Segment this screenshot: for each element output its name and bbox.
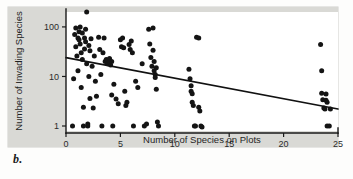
data-point bbox=[111, 82, 116, 87]
x-tick-label: 25 bbox=[333, 139, 343, 149]
data-point bbox=[131, 124, 136, 129]
data-point bbox=[109, 93, 114, 98]
data-point bbox=[114, 97, 119, 102]
data-point bbox=[90, 64, 95, 69]
data-point bbox=[83, 39, 88, 44]
data-point bbox=[98, 72, 103, 77]
data-point bbox=[135, 85, 140, 90]
data-point bbox=[149, 64, 154, 69]
axes-group bbox=[66, 9, 338, 133]
data-point bbox=[151, 26, 156, 31]
data-point bbox=[124, 100, 129, 105]
data-point bbox=[153, 75, 158, 80]
data-point bbox=[121, 45, 126, 50]
y-tick-label: 1 bbox=[54, 121, 59, 131]
data-point bbox=[324, 92, 329, 97]
data-point bbox=[93, 79, 98, 84]
data-point bbox=[74, 53, 79, 58]
data-point bbox=[116, 101, 121, 106]
data-point bbox=[79, 85, 84, 90]
y-tick-label: 100 bbox=[44, 22, 59, 32]
figure-caption: b. bbox=[13, 152, 23, 167]
data-point bbox=[91, 106, 96, 111]
data-point bbox=[99, 124, 104, 129]
data-point bbox=[92, 53, 97, 58]
data-points-group bbox=[70, 10, 333, 130]
data-point bbox=[146, 27, 151, 32]
data-point bbox=[151, 48, 156, 53]
data-point bbox=[186, 67, 191, 72]
data-point bbox=[196, 35, 201, 40]
x-tick-label: 20 bbox=[279, 139, 289, 149]
data-point bbox=[71, 76, 76, 81]
data-point bbox=[120, 35, 125, 40]
data-point bbox=[319, 68, 324, 73]
data-point bbox=[197, 109, 202, 114]
data-point bbox=[81, 124, 86, 129]
data-point bbox=[82, 46, 87, 51]
data-point bbox=[122, 89, 127, 94]
y-axis-title: Number of Invading Species bbox=[13, 11, 24, 131]
data-point bbox=[318, 42, 323, 47]
figure-container: 1101000510152025 Number of Species on Pl… bbox=[0, 0, 353, 179]
data-point bbox=[70, 124, 75, 129]
data-point bbox=[87, 96, 92, 101]
data-point bbox=[83, 27, 88, 32]
data-point bbox=[80, 31, 85, 36]
data-point bbox=[191, 103, 196, 108]
x-axis-title: Number of Species on Plots bbox=[143, 134, 261, 145]
data-point bbox=[189, 83, 194, 88]
data-point bbox=[154, 65, 159, 70]
data-point bbox=[147, 42, 152, 47]
data-point bbox=[78, 42, 83, 47]
data-point bbox=[94, 94, 99, 99]
data-point bbox=[73, 44, 78, 49]
data-point bbox=[152, 59, 157, 64]
scatter-chart: 1101000510152025 Number of Species on Pl… bbox=[8, 7, 338, 147]
data-point bbox=[325, 100, 330, 105]
data-point bbox=[89, 36, 94, 41]
data-point bbox=[84, 10, 89, 15]
data-point bbox=[110, 124, 115, 129]
data-point bbox=[102, 35, 107, 40]
data-point bbox=[96, 35, 101, 40]
data-point bbox=[133, 79, 138, 84]
data-point bbox=[75, 68, 80, 73]
data-point bbox=[140, 61, 145, 66]
data-point bbox=[327, 124, 332, 129]
data-point bbox=[193, 124, 198, 129]
data-point bbox=[148, 55, 153, 60]
chart-panel: 1101000510152025 Number of Species on Pl… bbox=[8, 7, 338, 147]
y-tick-label: 10 bbox=[49, 72, 59, 82]
data-point bbox=[85, 124, 90, 129]
data-point bbox=[79, 50, 84, 55]
data-point bbox=[130, 50, 135, 55]
data-point bbox=[319, 91, 324, 96]
data-point bbox=[144, 121, 149, 126]
data-point bbox=[190, 91, 195, 96]
data-point bbox=[77, 37, 82, 42]
trendline-group bbox=[66, 58, 338, 109]
data-point bbox=[87, 48, 92, 53]
data-point bbox=[86, 43, 91, 48]
data-point bbox=[156, 124, 161, 129]
data-point bbox=[86, 74, 91, 79]
x-tick-label: 5 bbox=[118, 139, 123, 149]
regression-line bbox=[66, 58, 338, 109]
data-point bbox=[200, 125, 205, 130]
x-tick-label: 0 bbox=[63, 139, 68, 149]
data-point bbox=[100, 50, 105, 55]
data-point bbox=[154, 87, 159, 92]
data-point bbox=[78, 24, 83, 29]
data-point bbox=[109, 59, 114, 64]
data-point bbox=[129, 38, 134, 43]
data-point bbox=[81, 105, 86, 110]
